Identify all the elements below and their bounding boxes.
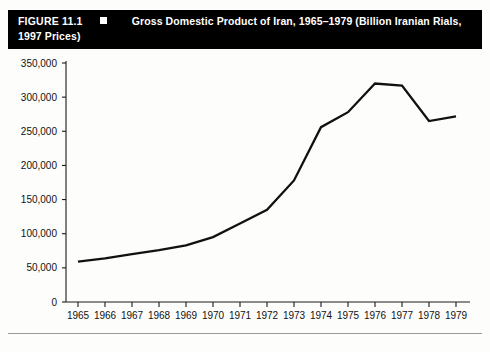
figure-header-bar: FIGURE 11.1 Gross Domestic Product of Ir… bbox=[8, 10, 482, 49]
y-tick-label: 150,000 bbox=[21, 194, 58, 205]
figure-number: FIGURE 11.1 bbox=[18, 15, 83, 27]
y-tick-label: 50,000 bbox=[26, 262, 57, 273]
x-tick-label: 1973 bbox=[283, 310, 306, 320]
x-tick-label: 1967 bbox=[121, 310, 144, 320]
x-tick-label: 1975 bbox=[337, 310, 360, 320]
x-axis-ticks: 1965196619671968196919701971197219731974… bbox=[67, 302, 468, 320]
line-chart: 050,000100,000150,000200,000250,000300,0… bbox=[0, 55, 490, 320]
x-tick-label: 1976 bbox=[364, 310, 387, 320]
x-tick-label: 1969 bbox=[175, 310, 198, 320]
x-tick-label: 1968 bbox=[148, 310, 171, 320]
y-tick-label: 200,000 bbox=[21, 160, 58, 171]
figure-container: FIGURE 11.1 Gross Domestic Product of Ir… bbox=[0, 0, 490, 352]
x-tick-label: 1972 bbox=[256, 310, 279, 320]
y-tick-label: 0 bbox=[51, 297, 57, 308]
figure-header-line-1: FIGURE 11.1 Gross Domestic Product of Ir… bbox=[18, 14, 474, 29]
y-tick-label: 300,000 bbox=[21, 92, 58, 103]
square-bullet-icon bbox=[100, 17, 107, 24]
x-tick-label: 1979 bbox=[445, 310, 468, 320]
x-tick-label: 1970 bbox=[202, 310, 225, 320]
x-tick-label: 1977 bbox=[391, 310, 414, 320]
bottom-divider bbox=[8, 333, 482, 334]
y-tick-label: 100,000 bbox=[21, 228, 58, 239]
figure-title-line-1: Gross Domestic Product of Iran, 1965–197… bbox=[132, 15, 462, 27]
x-tick-label: 1971 bbox=[229, 310, 252, 320]
x-tick-label: 1974 bbox=[310, 310, 333, 320]
y-axis-ticks: 050,000100,000150,000200,000250,000300,0… bbox=[21, 58, 66, 308]
figure-title-line-2: 1997 Prices) bbox=[18, 29, 474, 44]
y-tick-label: 250,000 bbox=[21, 126, 58, 137]
y-tick-label: 350,000 bbox=[21, 58, 58, 69]
x-tick-label: 1966 bbox=[94, 310, 117, 320]
chart-svg: 050,000100,000150,000200,000250,000300,0… bbox=[0, 55, 490, 320]
x-tick-label: 1978 bbox=[418, 310, 441, 320]
x-tick-label: 1965 bbox=[67, 310, 90, 320]
gdp-series-line bbox=[78, 83, 456, 261]
